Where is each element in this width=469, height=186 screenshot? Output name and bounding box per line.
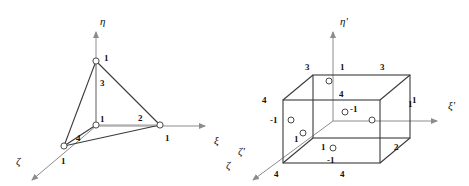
node-1 xyxy=(93,122,99,128)
cube-number-4-bottom-right: 4 xyxy=(340,170,345,179)
node-top-face-center xyxy=(326,78,332,84)
cube-edges xyxy=(283,75,410,163)
figure-vector-layer xyxy=(0,0,469,186)
node-number-3: 3 xyxy=(100,79,105,88)
cube-number-3-back-left: 3 xyxy=(305,63,310,72)
axis-label-eta-prime: η' xyxy=(340,16,348,27)
axis-label-zeta-secondary: ζ xyxy=(226,160,230,171)
value-label-eta-one: 1 xyxy=(104,54,109,63)
left-axes xyxy=(32,32,205,180)
cube-value-minus-one-left: -1 xyxy=(270,116,278,125)
node-bottom-face-center xyxy=(330,145,336,151)
cube-number-1-bottom-center: 1 xyxy=(321,143,326,152)
cube-number-3-back-right: 3 xyxy=(380,63,385,72)
cube-number-4-left: 4 xyxy=(262,96,267,105)
axis-label-xi-prime: ξ' xyxy=(448,100,455,111)
right-nodes xyxy=(288,78,375,151)
cube-number-1-front-left: 1 xyxy=(294,135,299,144)
node-number-1: 1 xyxy=(100,115,105,124)
value-label-zeta-one: 1 xyxy=(61,157,66,166)
value-label-xi-one: 1 xyxy=(165,134,170,143)
node-front-left-corner xyxy=(300,130,306,136)
axis-label-zeta: ζ xyxy=(16,156,20,167)
axis-label-eta: η xyxy=(100,16,105,27)
node-back-right-mid xyxy=(342,109,348,115)
node-number-4: 4 xyxy=(76,134,81,143)
shape-function-figure: η ξ ζ ζ 3 1 2 4 1 1 1 η' ξ' ζ' 3 1 3 4 4… xyxy=(0,0,469,186)
axis-label-xi: ξ xyxy=(214,135,219,146)
cube-value-minus-one-bottom: -1 xyxy=(327,156,335,165)
node-left-mid xyxy=(288,117,294,123)
cube-number-4-bottom-left: 4 xyxy=(274,170,279,179)
cube-value-minus-one-back: -1 xyxy=(350,105,358,114)
node-4 xyxy=(61,143,67,149)
axis-label-zeta-prime: ζ' xyxy=(238,146,245,157)
node-number-2: 2 xyxy=(138,114,143,123)
cube-number-2-front-right: 2 xyxy=(394,143,399,152)
node-right-mid xyxy=(369,117,375,123)
node-3 xyxy=(93,58,99,64)
cube-value-one-right: 1 xyxy=(408,100,413,109)
cube-number-1-top: 1 xyxy=(340,63,345,72)
cube-number-4-center: 4 xyxy=(339,90,344,99)
node-2 xyxy=(157,122,163,128)
